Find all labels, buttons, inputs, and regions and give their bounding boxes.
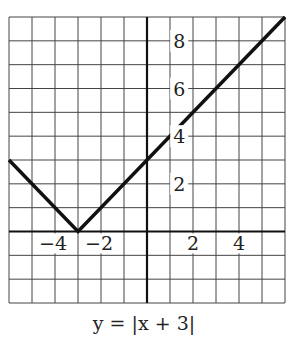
x-tick-label: −2: [85, 232, 113, 254]
y-tick-label: 2: [173, 173, 185, 195]
x-tick-label: 2: [187, 232, 199, 254]
y-tick-label: 8: [173, 30, 185, 52]
graph-area: 2468−4−224: [0, 0, 288, 310]
tick-labels: 2468−4−224: [39, 30, 252, 255]
x-tick-label: −4: [39, 232, 67, 254]
chart-caption: y = |x + 3|: [0, 312, 288, 334]
y-tick-label: 4: [173, 125, 185, 147]
x-tick-label: 4: [233, 232, 245, 254]
y-tick-label: 6: [173, 78, 185, 100]
